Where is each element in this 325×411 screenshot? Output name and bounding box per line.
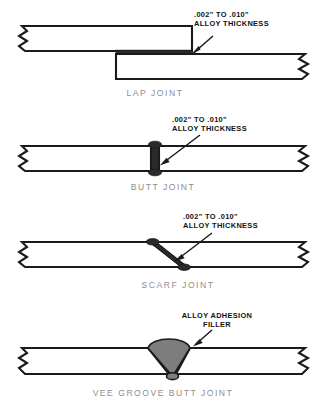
scarf-alloy-top-bulge: [146, 239, 159, 245]
lap-joint-caption: LAP JOINT: [127, 88, 184, 98]
diagram-canvas: .002" TO .010" ALLOY THICKNESS LAP JOINT…: [0, 0, 325, 411]
butt-annotation-line2: ALLOY THICKNESS: [172, 124, 247, 133]
vee-left-plate: [19, 348, 169, 374]
lap-annotation-line1: .002" TO .010": [194, 10, 249, 19]
figure-lap-joint: .002" TO .010" ALLOY THICKNESS LAP JOINT: [19, 10, 308, 98]
joint-types-diagram: .002" TO .010" ALLOY THICKNESS LAP JOINT…: [0, 0, 325, 411]
butt-alloy-strip: [152, 145, 159, 172]
figure-vee-groove-butt-joint: ALLOY ADHESION FILLER VEE GROOVE BUTT JO…: [19, 311, 308, 398]
butt-joint-caption: BUTT JOINT: [131, 182, 196, 192]
lap-lower-plate: [116, 54, 308, 79]
scarf-joint-caption: SCARF JOINT: [142, 280, 215, 290]
scarf-annotation-line1: .002" TO .010": [183, 212, 238, 221]
vee-filler-root-bead: [167, 373, 179, 380]
vee-right-plate: [176, 348, 308, 374]
figure-butt-joint: .002" TO .010" ALLOY THICKNESS BUTT JOIN…: [19, 115, 308, 192]
vee-annotation-line2: FILLER: [203, 320, 231, 329]
butt-alloy-bottom-bulge: [148, 169, 161, 176]
butt-annotation-line1: .002" TO .010": [172, 115, 227, 124]
vee-groove-butt-joint-caption: VEE GROOVE BUTT JOINT: [93, 388, 234, 398]
butt-alloy-top-bulge: [148, 141, 161, 148]
lap-annotation-line2: ALLOY THICKNESS: [194, 19, 269, 28]
vee-annotation-line1: ALLOY ADHESION: [182, 311, 253, 320]
scarf-annotation-line2: ALLOY THICKNESS: [183, 221, 258, 230]
scarf-alloy-bottom-bulge: [178, 264, 191, 270]
figure-scarf-joint: .002" TO .010" ALLOY THICKNESS SCARF JOI…: [19, 212, 308, 290]
butt-left-plate: [19, 146, 151, 171]
lap-upper-plate: [19, 26, 192, 51]
